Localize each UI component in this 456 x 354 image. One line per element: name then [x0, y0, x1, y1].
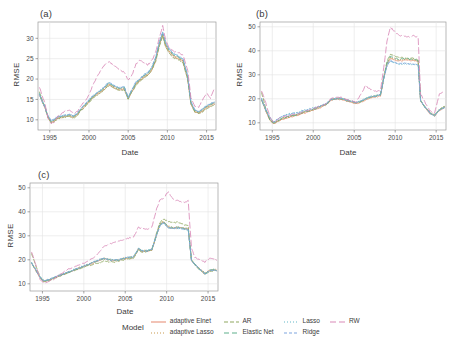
legend-key-elastic-net-icon — [223, 329, 240, 337]
svg-text:2000: 2000 — [77, 295, 92, 302]
svg-text:50: 50 — [248, 23, 256, 30]
panel-b: (b) RMSE Date 10203040501995200020052010… — [228, 0, 456, 165]
panel-a-tag: (a) — [40, 8, 52, 19]
svg-text:2010: 2010 — [159, 295, 174, 302]
svg-text:2000: 2000 — [306, 134, 321, 141]
legend-key-ar-icon — [223, 318, 240, 326]
legend-item-ridge[interactable]: Ridge — [283, 329, 320, 337]
svg-text:40: 40 — [248, 47, 256, 54]
svg-text:10: 10 — [248, 119, 256, 126]
legend-label: RW — [349, 318, 360, 325]
panel-a-xlabel: Date — [55, 148, 205, 157]
panel-a-plot-area: 101520253019952000200520102015 — [0, 0, 228, 165]
panel-c: (c) RMSE Date 10203040501995200020052010… — [0, 163, 240, 318]
svg-text:30: 30 — [26, 35, 34, 42]
svg-text:2005: 2005 — [118, 295, 133, 302]
svg-text:20: 20 — [18, 256, 26, 263]
svg-text:1995: 1995 — [265, 134, 280, 141]
legend-label: AR — [243, 318, 252, 325]
svg-text:30: 30 — [18, 232, 26, 239]
legend: Model adaptive ElnetARLassoRWadaptive La… — [122, 316, 360, 338]
svg-text:10: 10 — [26, 116, 34, 123]
svg-text:15: 15 — [26, 96, 34, 103]
legend-item-ar[interactable]: AR — [223, 318, 274, 326]
legend-label: adaptive Lasso — [170, 329, 214, 336]
legend-item-elastic-net[interactable]: Elastic Net — [223, 329, 274, 337]
legend-key-adaptive-elnet-icon — [150, 318, 167, 326]
svg-text:2005: 2005 — [347, 134, 362, 141]
panel-c-plot-area: 102030405019952000200520102015 — [0, 163, 240, 323]
legend-label: Ridge — [303, 329, 320, 336]
legend-label: adaptive Elnet — [170, 318, 211, 325]
panel-b-xlabel: Date — [273, 148, 423, 157]
svg-text:25: 25 — [26, 55, 34, 62]
legend-title: Model — [122, 323, 144, 332]
legend-item-rw[interactable]: RW — [329, 318, 360, 326]
svg-text:10: 10 — [18, 280, 26, 287]
legend-label: Elastic Net — [243, 329, 274, 336]
legend-key-lasso-icon — [283, 318, 300, 326]
legend-item-adaptive-lasso[interactable]: adaptive Lasso — [150, 329, 214, 337]
legend-item-lasso[interactable]: Lasso — [283, 318, 320, 326]
svg-text:1995: 1995 — [43, 134, 58, 141]
legend-label: Lasso — [303, 318, 320, 325]
svg-text:2015: 2015 — [199, 134, 214, 141]
panel-c-ylabel: RMSE — [6, 216, 15, 256]
svg-text:20: 20 — [26, 75, 34, 82]
svg-text:2000: 2000 — [82, 134, 97, 141]
panel-a: (a) RMSE Date 10152025301995200020052010… — [0, 0, 228, 165]
legend-entries: adaptive ElnetARLassoRWadaptive LassoEla… — [150, 316, 360, 338]
panel-c-tag: (c) — [38, 169, 50, 180]
svg-text:2015: 2015 — [429, 134, 444, 141]
panel-b-tag: (b) — [256, 8, 268, 19]
legend-key-adaptive-lasso-icon — [150, 329, 167, 337]
legend-key-ridge-icon — [283, 329, 300, 337]
svg-text:2005: 2005 — [121, 134, 136, 141]
svg-text:2010: 2010 — [160, 134, 175, 141]
svg-text:20: 20 — [248, 95, 256, 102]
panel-b-plot-area: 102030405019952000200520102015 — [228, 0, 456, 165]
legend-key-rw-icon — [329, 318, 346, 326]
svg-text:40: 40 — [18, 208, 26, 215]
svg-text:2010: 2010 — [388, 134, 403, 141]
panel-a-ylabel: RMSE — [12, 55, 21, 95]
panel-b-ylabel: RMSE — [235, 55, 244, 95]
svg-text:50: 50 — [18, 184, 26, 191]
svg-text:30: 30 — [248, 71, 256, 78]
panel-c-xlabel: Date — [50, 307, 200, 316]
svg-text:2015: 2015 — [201, 295, 216, 302]
legend-item-adaptive-elnet[interactable]: adaptive Elnet — [150, 318, 214, 326]
svg-text:1995: 1995 — [35, 295, 50, 302]
